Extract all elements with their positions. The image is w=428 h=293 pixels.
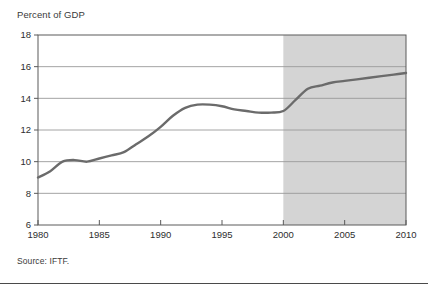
x-tick-label: 1995 (211, 229, 232, 240)
y-tick-label: 16 (20, 61, 31, 72)
bottom-divider (0, 283, 428, 284)
source-note: Source: IFTF. (17, 256, 69, 266)
x-tick-label: 1990 (150, 229, 171, 240)
y-tick-label: 18 (20, 29, 31, 40)
x-tick-label: 2005 (334, 229, 355, 240)
y-tick-label: 8 (26, 188, 31, 199)
x-tick-label: 2000 (273, 229, 294, 240)
x-tick-label: 2010 (395, 229, 416, 240)
chart-figure: Percent of GDP 6810121416181980198519901… (0, 0, 428, 293)
y-tick-label: 14 (20, 93, 31, 104)
y-tick-label: 12 (20, 124, 31, 135)
x-tick-label: 1985 (89, 229, 110, 240)
y-tick-label: 10 (20, 156, 31, 167)
x-tick-label: 1980 (27, 229, 48, 240)
line-chart: 6810121416181980198519901995200020052010 (0, 0, 428, 293)
